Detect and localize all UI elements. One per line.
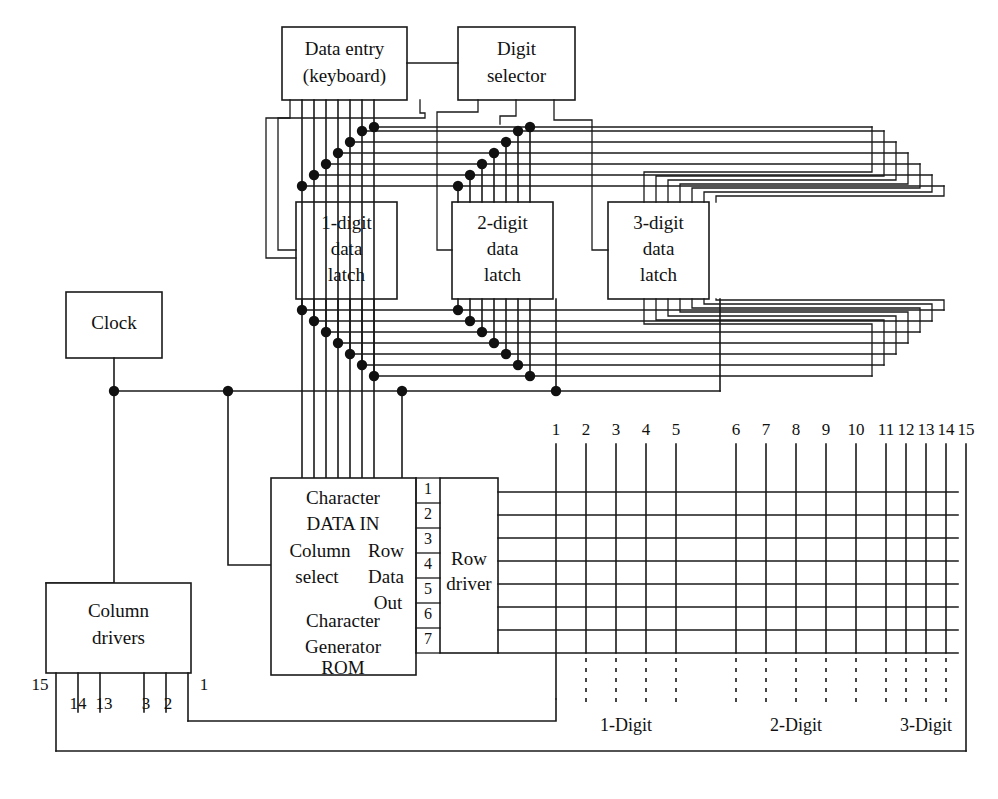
column-driver-pin-13: 13 (96, 694, 113, 713)
column-lines (556, 444, 966, 751)
rom-label-data-in: DATA IN (307, 513, 380, 534)
latch3-label-line2: data (643, 238, 675, 259)
column-number-12: 12 (898, 420, 915, 439)
digit-group-labels: 1-Digit 2-Digit 3-Digit (600, 715, 952, 735)
rom-pin-1: 1 (424, 480, 432, 497)
rom-pin-4: 4 (424, 555, 432, 572)
junction-dot (397, 386, 407, 396)
junction-dot (477, 159, 487, 169)
block-clock: Clock (66, 292, 162, 358)
junction-dot (551, 386, 561, 396)
rom-label-column: Column (289, 540, 351, 561)
latch3-label-line1: 3-digit (633, 212, 684, 233)
column-number-7: 7 (762, 420, 771, 439)
rom-label-character: Character (306, 487, 381, 508)
column-number-2: 2 (582, 420, 591, 439)
junction-dot (501, 137, 511, 147)
column-driver-pin-3: 3 (142, 694, 151, 713)
junction-dot (297, 305, 307, 315)
digit-selector-label-line1: Digit (497, 38, 537, 59)
junction-dot (357, 360, 367, 370)
column-number-5: 5 (672, 420, 681, 439)
block-character-generator-rom: Character DATA IN Column Row select Data… (271, 478, 416, 678)
column-driver-pin-2: 2 (164, 694, 173, 713)
rom-label-generator: Generator (305, 636, 382, 657)
column-number-4: 4 (642, 420, 651, 439)
column-driver-pins: 15 14 13 3 2 1 (32, 673, 209, 751)
junction-dot (453, 305, 463, 315)
latch1-label-line3: latch (328, 264, 365, 285)
rom-pin-6: 6 (424, 605, 432, 622)
bottom-return-bus (56, 699, 966, 751)
data-entry-label-line2: (keyboard) (303, 65, 386, 87)
circuit-diagram-canvas: Data entry (keyboard) Digit selector 1-d… (0, 0, 998, 799)
column-number-10: 10 (848, 420, 865, 439)
group-label-2-digit: 2-Digit (770, 715, 822, 735)
column-number-15: 15 (958, 420, 975, 439)
latch2-label-line1: 2-digit (477, 212, 528, 233)
row-driver-label-line2: driver (446, 573, 492, 594)
rom-label-character2: Character (306, 610, 381, 631)
junction-dot (465, 316, 475, 326)
rom-label-row: Row (368, 540, 404, 561)
junction-dot (513, 126, 523, 136)
junction-dot (369, 122, 379, 132)
latch2-label-line3: latch (484, 264, 521, 285)
junction-dot (489, 338, 499, 348)
row-lines (498, 492, 958, 653)
bus-latch1-input-upper (297, 122, 944, 191)
junction-dot (345, 137, 355, 147)
column-drivers-label-line1: Column (88, 600, 150, 621)
schematic-svg: Data entry (keyboard) Digit selector 1-d… (0, 0, 998, 799)
junction-dot (465, 170, 475, 180)
rom-row-pin-ladder: 1 2 3 4 5 6 7 (416, 478, 440, 653)
junction-dot (223, 386, 233, 396)
junction-dot (369, 371, 379, 381)
block-latch-3digit: 3-digit data latch (608, 202, 709, 299)
junction-dot (321, 159, 331, 169)
digit-selector-label-line2: selector (487, 65, 547, 86)
column-driver-pin-1: 1 (200, 675, 209, 694)
junction-dot (309, 316, 319, 326)
junction-dot (525, 371, 535, 381)
row-driver-label-line1: Row (451, 548, 487, 569)
column-number-14: 14 (938, 420, 956, 439)
block-column-drivers: Column drivers (46, 583, 191, 673)
column-number-1: 1 (552, 420, 561, 439)
bus-latch2-input-upper (453, 122, 535, 202)
rom-label-select: select (295, 566, 339, 587)
rom-label-rom: ROM (321, 657, 364, 678)
rom-label-data: Data (368, 566, 404, 587)
junction-dot (333, 338, 343, 348)
junction-dot (501, 349, 511, 359)
latch3-label-line3: latch (640, 264, 677, 285)
block-latch-1digit: 1-digit data latch (296, 202, 397, 299)
latch1-label-line1: 1-digit (321, 212, 372, 233)
junction-dot (453, 181, 463, 191)
rom-pin-3: 3 (424, 530, 432, 547)
bus-latch2-output-lower (453, 299, 535, 381)
block-row-driver: Row driver (440, 478, 498, 653)
junction-dot (109, 386, 119, 396)
block-latch-2digit: 2-digit data latch (452, 202, 553, 299)
group-label-3-digit: 3-Digit (900, 715, 952, 735)
rom-pin-2: 2 (424, 505, 432, 522)
junction-dot (309, 170, 319, 180)
column-number-3: 3 (612, 420, 621, 439)
column-drivers-label-line2: drivers (92, 627, 145, 648)
latch2-label-line2: data (487, 238, 519, 259)
clock-label: Clock (91, 312, 137, 333)
junction-dot (321, 327, 331, 337)
data-entry-label-line1: Data entry (305, 38, 385, 59)
junction-dot (297, 181, 307, 191)
junction-dot (525, 122, 535, 132)
column-number-9: 9 (822, 420, 831, 439)
column-number-8: 8 (792, 420, 801, 439)
column-number-11: 11 (878, 420, 894, 439)
junction-dot (477, 327, 487, 337)
column-driver-pin-15: 15 (32, 675, 49, 694)
junction-dot (333, 148, 343, 158)
block-digit-selector: Digit selector (458, 27, 575, 100)
latch1-label-line2: data (331, 238, 363, 259)
bus-latch1-output-lower (297, 299, 944, 381)
